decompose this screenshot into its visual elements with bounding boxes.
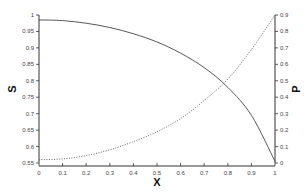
y-right-tick-label: 0 — [280, 160, 284, 166]
y-right-tick-label: 0.8 — [280, 28, 289, 34]
y-left-tick-label: 0.8 — [26, 78, 35, 84]
series-group — [39, 15, 275, 161]
y-left-tick-label: 0.9 — [26, 45, 35, 51]
y-left-tick-label: 0.65 — [22, 127, 34, 133]
x-ticks: 00.10.20.30.40.50.60.70.80.91 — [37, 163, 277, 176]
y-left-axis-title: S — [6, 85, 18, 92]
x-tick-label: 0.9 — [247, 170, 256, 176]
y-right-tick-label: 0.2 — [280, 127, 289, 133]
y-right-tick-label: 0.9 — [280, 12, 289, 18]
x-tick-label: 0.6 — [176, 170, 185, 176]
series-line-p — [39, 15, 275, 160]
y-right-ticks: 00.10.20.30.40.50.60.70.80.9 — [275, 12, 289, 166]
y-right-tick-label: 0.3 — [280, 111, 289, 117]
x-tick-label: 0.4 — [129, 170, 138, 176]
y-right-axis-title: P — [290, 85, 302, 92]
y-left-tick-label: 0.95 — [22, 28, 34, 34]
line-chart: 00.10.20.30.40.50.60.70.80.91 0.550.60.6… — [0, 0, 308, 195]
y-left-tick-label: 0.6 — [26, 144, 35, 150]
y-left-tick-label: 1 — [31, 12, 35, 18]
axes — [39, 15, 275, 166]
y-left-tick-label: 0.75 — [22, 94, 34, 100]
y-left-tick-label: 0.85 — [22, 61, 34, 67]
x-axis-title: X — [153, 176, 161, 188]
y-left-tick-label: 0.7 — [26, 111, 35, 117]
y-right-tick-label: 0.6 — [280, 61, 289, 67]
x-tick-label: 0.1 — [58, 170, 67, 176]
x-tick-label: 1 — [273, 170, 277, 176]
y-right-tick-label: 0.7 — [280, 45, 289, 51]
y-left-ticks: 0.550.60.650.70.750.80.850.90.951 — [22, 12, 39, 166]
x-tick-label: 0.7 — [200, 170, 209, 176]
x-tick-label: 0.8 — [224, 170, 233, 176]
y-right-tick-label: 0.5 — [280, 78, 289, 84]
x-tick-label: 0 — [37, 170, 41, 176]
y-right-tick-label: 0.4 — [280, 94, 289, 100]
y-left-tick-label: 0.55 — [22, 160, 34, 166]
x-tick-label: 0.3 — [106, 170, 115, 176]
x-tick-label: 0.2 — [82, 170, 91, 176]
y-right-tick-label: 0.1 — [280, 144, 289, 150]
series-line-s — [39, 20, 275, 161]
